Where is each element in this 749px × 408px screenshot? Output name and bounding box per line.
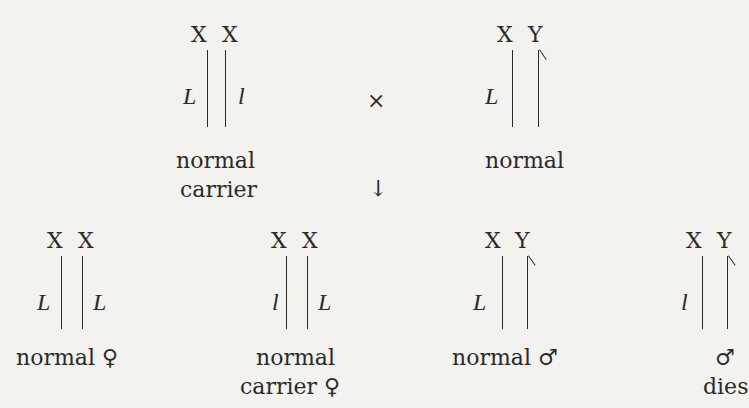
phenotype-label: normal — [485, 148, 564, 173]
phenotype-label: normal ♀ — [16, 345, 118, 370]
chromosome-line — [82, 256, 83, 329]
chromosome-x-label: X — [47, 228, 63, 253]
carrier-label: carrier — [180, 177, 257, 202]
chromosome-x-label: X — [485, 228, 501, 253]
chromosome-line — [512, 50, 513, 127]
allele-label: l — [272, 289, 279, 316]
phenotype-label: normal — [256, 345, 335, 370]
y-chromosome-line — [538, 50, 539, 127]
y-chromosome-hook — [539, 49, 547, 60]
chromosome-line — [207, 50, 208, 127]
allele-label: L — [37, 289, 50, 316]
chromosome-x-label: X — [497, 22, 513, 47]
allele-label: L — [93, 289, 106, 316]
allele-label: L — [183, 83, 196, 110]
allele-label: l — [238, 83, 245, 110]
y-chromosome-hook — [528, 255, 536, 266]
chromosome-y-label: Y — [717, 228, 732, 253]
allele-label: l — [681, 289, 688, 316]
chromosome-line — [307, 256, 308, 329]
y-chromosome-line — [527, 256, 528, 329]
carrier-label: carrier ♀ — [240, 374, 340, 399]
phenotype-label: normal — [176, 148, 255, 173]
chromosome-line — [61, 256, 62, 329]
chromosome-line — [702, 256, 703, 329]
cross-symbol: × — [367, 88, 385, 113]
y-chromosome-hook — [728, 255, 736, 266]
chromosome-x-label: X — [222, 22, 238, 47]
down-arrow-icon: ↓ — [369, 176, 387, 201]
allele-label: L — [485, 83, 498, 110]
y-chromosome-line — [727, 256, 728, 329]
chromosome-line — [286, 256, 287, 329]
chromosome-x-label: X — [191, 22, 207, 47]
chromosome-y-label: Y — [515, 228, 530, 253]
chromosome-line — [502, 256, 503, 329]
dies-label: dies — [703, 374, 748, 399]
chromosome-x-label: X — [271, 228, 287, 253]
chromosome-x-label: X — [78, 228, 94, 253]
chromosome-line — [225, 50, 226, 127]
chromosome-y-label: Y — [528, 22, 543, 47]
male-symbol: ♂ — [715, 345, 735, 370]
phenotype-label: normal ♂ — [452, 345, 558, 370]
chromosome-x-label: X — [302, 228, 318, 253]
chromosome-x-label: X — [686, 228, 702, 253]
allele-label: L — [318, 289, 331, 316]
allele-label: L — [473, 289, 486, 316]
